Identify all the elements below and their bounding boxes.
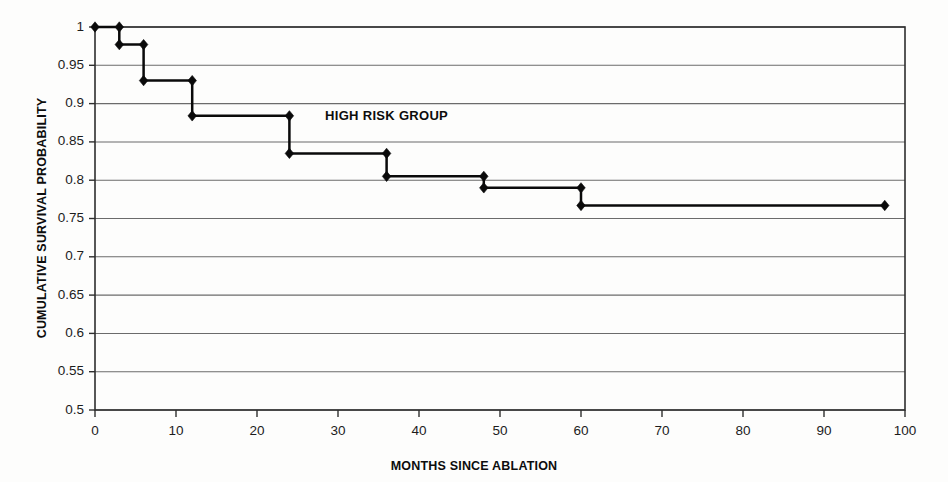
y-tick-label: 0.8 (65, 172, 84, 187)
data-point-marker (188, 111, 197, 121)
y-tick-label: 1 (76, 19, 84, 34)
x-tick-label: 90 (816, 423, 831, 438)
x-tick-label: 50 (492, 423, 507, 438)
x-tick-label: 40 (411, 423, 426, 438)
data-point-marker (188, 75, 197, 85)
gridlines (95, 27, 905, 410)
x-tick-label: 80 (735, 423, 750, 438)
data-point-marker (577, 200, 586, 210)
survival-step-line (95, 27, 885, 205)
x-tick-label: 100 (894, 423, 917, 438)
data-point-marker (115, 39, 124, 49)
data-point-marker (880, 200, 889, 210)
x-tick-label: 30 (330, 423, 345, 438)
x-tick-label: 60 (573, 423, 588, 438)
survival-curve-series (91, 22, 889, 211)
data-point-marker (382, 148, 391, 158)
x-tick-label: 0 (91, 423, 99, 438)
data-point-marker (577, 183, 586, 193)
y-tick-label: 0.65 (58, 287, 84, 302)
plot-annotations: HIGH RISK GROUP (325, 108, 448, 123)
x-tick-label: 10 (168, 423, 183, 438)
y-tick-label: 0.6 (65, 325, 84, 340)
y-tick-label: 0.95 (58, 57, 84, 72)
data-point-marker (139, 39, 148, 49)
x-axis-ticks: 0102030405060708090100 (91, 410, 916, 438)
chart-canvas: 0.50.550.60.650.70.750.80.850.90.951 010… (0, 0, 948, 482)
y-tick-label: 0.7 (65, 248, 84, 263)
group-label-annotation: HIGH RISK GROUP (325, 108, 448, 123)
y-tick-label: 0.5 (65, 402, 84, 417)
y-tick-label: 0.85 (58, 133, 84, 148)
x-tick-label: 70 (654, 423, 669, 438)
data-point-marker (139, 75, 148, 85)
y-tick-label: 0.75 (58, 210, 84, 225)
y-axis-ticks: 0.50.550.60.650.70.750.80.850.90.951 (58, 19, 95, 417)
data-point-marker (115, 22, 124, 32)
data-point-marker (285, 111, 294, 121)
data-point-marker (91, 22, 100, 32)
y-tick-label: 0.9 (65, 95, 84, 110)
kaplan-meier-chart: 0.50.550.60.650.70.750.80.850.90.951 010… (0, 0, 948, 482)
x-tick-label: 20 (249, 423, 264, 438)
x-axis-title: MONTHS SINCE ABLATION (391, 459, 558, 473)
y-axis-title: CUMULATIVE SURVIVAL PROBABILITY (35, 97, 49, 338)
data-point-marker (285, 148, 294, 158)
data-point-marker (480, 183, 489, 193)
y-tick-label: 0.55 (58, 363, 84, 378)
